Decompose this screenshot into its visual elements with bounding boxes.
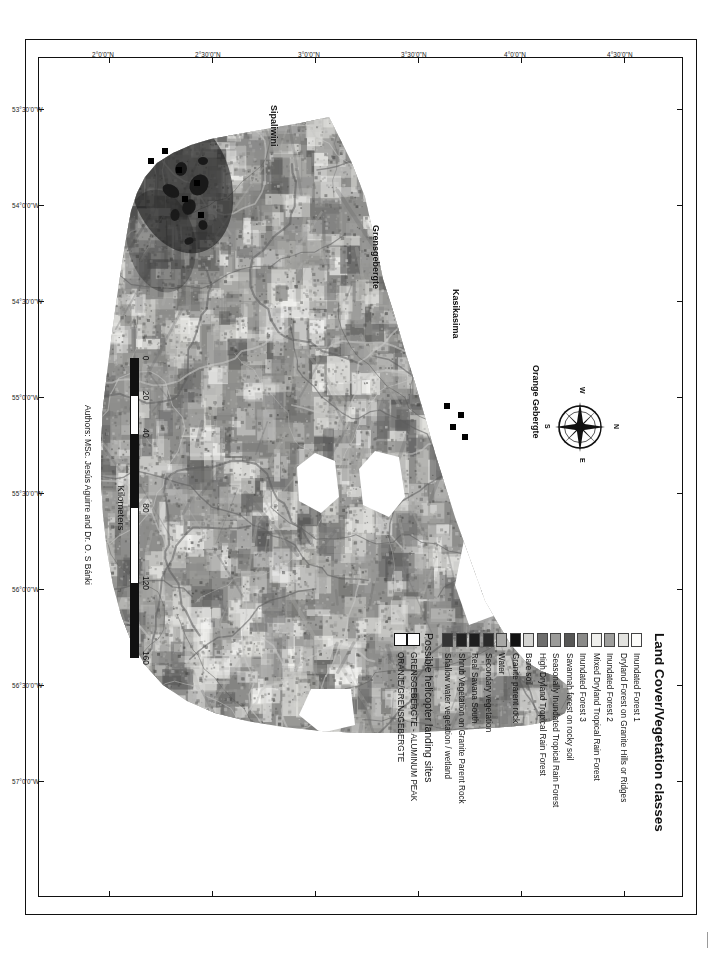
graticule-tick <box>315 891 316 897</box>
compass-label-south: S <box>544 424 551 429</box>
legend-label: Seasonally Inundated Tropical Rain Fores… <box>552 653 561 807</box>
legend-color-swatch <box>551 633 562 647</box>
legend-row: Secondary vegetation <box>483 633 495 895</box>
scale-bar: 0204080120160 Kilometers <box>116 358 151 658</box>
legend-label: Secondary vegetation <box>484 653 493 732</box>
scale-tick-label: 40 <box>141 428 151 437</box>
graticule-tick <box>677 589 683 590</box>
longitude-tick-label: 53°30'0"W <box>12 106 43 113</box>
graticule-tick <box>677 205 683 206</box>
scale-tick-label: 20 <box>141 391 151 400</box>
legend-color-swatch <box>618 633 629 647</box>
legend-site-marker-icon <box>394 633 407 646</box>
legend-label: Shrub Vegetation on Granite Parent Rock <box>457 653 466 804</box>
legend-label: Granite parent rock <box>511 653 520 723</box>
scale-segment <box>131 434 138 509</box>
scale-segment <box>131 583 138 658</box>
legend-row: Real Savana South <box>469 633 481 895</box>
legend-label: Inundated Forest 3 <box>579 653 588 722</box>
poster-frame: Land Cover/Vegetation classes for Southe… <box>0 0 722 956</box>
legend-site-label: ORANJE/GRENSGEBERGTE <box>396 652 405 762</box>
legend-title: Land Cover/Vegetation classes <box>652 633 667 895</box>
legend-row: Bare soil <box>523 633 535 895</box>
legend-color-swatch <box>483 633 494 647</box>
compass-label-west: W <box>579 387 586 394</box>
legend-color-swatch <box>605 633 616 647</box>
longitude-tick-label: 56°30'0"W <box>12 682 43 689</box>
longitude-tick-label: 54°0'0"W <box>12 202 39 209</box>
graticule-tick <box>677 493 683 494</box>
authors-credit: Authors: MSc. Jesús Aguirre and Dr. O. S… <box>83 405 93 585</box>
legend-color-swatch <box>510 633 521 647</box>
compass-rose-svg <box>549 396 611 458</box>
legend-row: Inundated Forest 1 <box>631 633 643 895</box>
latitude-tick-label: 3°30'0"N <box>401 51 427 58</box>
graticule-tick <box>677 781 683 782</box>
legend-color-swatch <box>524 633 535 647</box>
legend-color-swatch <box>443 633 454 647</box>
latitude-tick-label: 2°30'0"N <box>195 51 221 58</box>
place-label: Sipaliwini <box>269 105 279 147</box>
longitude-tick-label: 57°0'0"W <box>12 778 39 785</box>
legend-site-marker-icon <box>408 633 421 646</box>
legend-row: Water <box>496 633 508 895</box>
place-label: Grensgebergte <box>371 225 381 289</box>
legend-label: Dryland Forest on Granite Hills or Ridge… <box>619 653 628 802</box>
legend-row: Savannah forest on rocky soil <box>564 633 576 895</box>
graticule-tick <box>212 891 213 897</box>
scale-segment <box>131 359 138 396</box>
legend-row: Dryland Forest on Granite Hills or Ridge… <box>618 633 630 895</box>
scale-segment <box>131 508 138 583</box>
scale-bar-units: Kilometers <box>116 358 127 658</box>
legend-sites-title: Possible helicopter landing sites <box>423 633 435 895</box>
graticule-tick <box>677 685 683 686</box>
latitude-tick-label: 4°30'0"N <box>607 51 633 58</box>
legend-site-row: ORANJE/GRENSGEBERGTE <box>395 633 407 895</box>
legend-color-swatch <box>537 633 548 647</box>
legend-site-label: GRENSGEBERGTE - ALUMINUM PEAK <box>410 652 419 801</box>
legend-label: Bare soil <box>525 653 534 685</box>
legend-class-list: Inundated Forest 1Dryland Forest on Gran… <box>442 633 643 895</box>
graticule-tick <box>109 891 110 897</box>
legend-color-swatch <box>564 633 575 647</box>
legend-site-list: GRENSGEBERGTE - ALUMINUM PEAKORANJE/GREN… <box>395 633 421 895</box>
legend-label: Mixed Dryland Tropical Rain Forest <box>592 653 601 781</box>
longitude-tick-label: 54°30'0"W <box>12 298 43 305</box>
legend-row: Inundated Forest 3 <box>577 633 589 895</box>
longitude-tick-label: 56°0'0"W <box>12 586 39 593</box>
graticule-tick <box>677 397 683 398</box>
legend-panel: Land Cover/Vegetation classes Inundated … <box>393 633 667 895</box>
legend-color-swatch <box>632 633 643 647</box>
legend-color-swatch <box>456 633 467 647</box>
graticule-tick <box>677 109 683 110</box>
legend-label: Savannah forest on rocky soil <box>565 653 574 760</box>
longitude-tick-label: 55°0'0"W <box>12 394 39 401</box>
compass-label-east: E <box>579 458 586 463</box>
legend-color-swatch <box>591 633 602 647</box>
scale-tick-label: 120 <box>141 576 151 590</box>
legend-row: Granite parent rock <box>510 633 522 895</box>
page-edge-mark <box>707 932 708 948</box>
latitude-tick-label: 4°0'0"N <box>504 51 526 58</box>
scale-segment <box>131 396 138 433</box>
legend-label: Inundated Forest 1 <box>633 653 642 722</box>
legend-site-row: GRENSGEBERGTE - ALUMINUM PEAK <box>408 633 420 895</box>
legend-row: Inundated Forest 2 <box>604 633 616 895</box>
scale-tick-label: 80 <box>141 503 151 512</box>
legend-row: Shrub Vegetation on Granite Parent Rock <box>456 633 468 895</box>
legend-label: Water <box>498 653 507 675</box>
scale-bar-ticks: 0204080120160 <box>139 358 151 658</box>
legend-row: Seasonally Inundated Tropical Rain Fores… <box>550 633 562 895</box>
latitude-tick-label: 2°0'0"N <box>92 51 114 58</box>
longitude-tick-label: 55°30'0"W <box>12 490 43 497</box>
compass-rose-icon: N E S W <box>549 396 611 458</box>
legend-row: Shallow water vegetation / wetland <box>442 633 454 895</box>
place-label: Orange Gebergte <box>531 365 541 439</box>
compass-label-north: N <box>613 424 620 429</box>
scale-bar-body <box>130 358 139 658</box>
legend-label: Inundated Forest 2 <box>606 653 615 722</box>
legend-row: High Dryland Tropical Rain Forest <box>537 633 549 895</box>
legend-label: Shallow water vegetation / wetland <box>444 653 453 779</box>
latitude-tick-label: 3°0'0"N <box>298 51 320 58</box>
scale-tick-label: 0 <box>141 356 151 361</box>
